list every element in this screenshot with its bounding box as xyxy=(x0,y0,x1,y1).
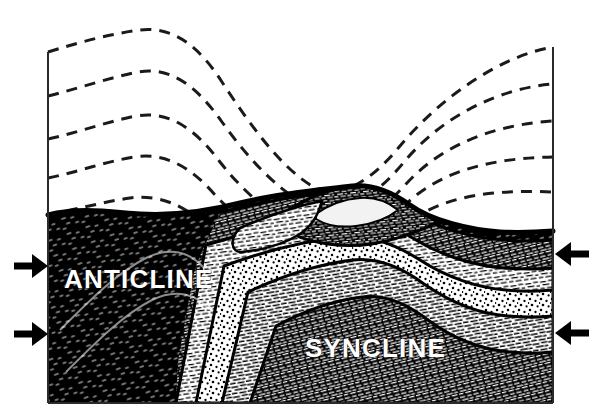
geologic-block-diagram: ANTICLINE SYNCLINE xyxy=(0,0,601,415)
anticline-label: ANTICLINE xyxy=(64,264,213,294)
syncline-label: SYNCLINE xyxy=(305,333,446,363)
